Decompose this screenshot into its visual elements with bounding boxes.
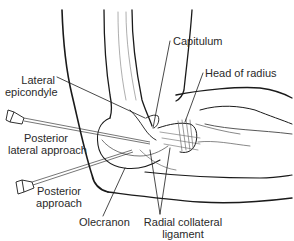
label-radial-collateral-line2: ligament — [137, 228, 229, 240]
label-olecranon: Olecranon — [79, 216, 130, 228]
label-posterior-line1: Posterior — [34, 185, 84, 197]
leader-lateral-epicondyle — [57, 77, 145, 118]
leader-radial-collateral-a — [150, 150, 160, 214]
leader-head-of-radius — [185, 73, 203, 122]
label-radial-collateral-line1: Radial collateral — [137, 216, 229, 228]
label-capitulum: Capitulum — [173, 35, 223, 47]
leader-capitulum — [153, 41, 170, 128]
label-lateral-epicondyle-line2: epicondyle — [5, 86, 58, 98]
leader-radial-collateral-b — [160, 148, 170, 214]
label-posterior-lateral-line1: Posterior — [8, 132, 84, 144]
label-head-of-radius: Head of radius — [205, 67, 277, 79]
label-lateral-epicondyle-line1: Lateral — [14, 74, 55, 86]
elbow-anatomy-diagram: Capitulum Lateral epicondyle Head of rad… — [0, 0, 294, 241]
arm-skin-posterior — [62, 10, 108, 192]
label-posterior-lateral-line2: lateral approach — [8, 144, 84, 156]
label-posterior-line2: approach — [34, 197, 84, 209]
